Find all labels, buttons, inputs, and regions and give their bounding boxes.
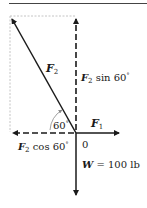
weight-label: W = 100 lb	[82, 160, 140, 170]
weight-symbol: W	[82, 159, 93, 170]
f2-cos-degree: °	[65, 140, 68, 147]
f1-label: F1	[91, 118, 103, 131]
f2-sin-degree: °	[126, 71, 129, 78]
f2-sin-subscript: 2	[88, 77, 92, 85]
f1-subscript: 1	[99, 123, 103, 131]
origin-label: 0	[82, 140, 88, 150]
force-diagram: F2 F2 sin 60° 60° F1 0 F2 cos 60° W = 10…	[0, 0, 147, 208]
f2-sin-text: sin 60	[96, 72, 127, 83]
angle-value: 60	[53, 120, 66, 131]
f1-symbol: F	[91, 117, 99, 130]
f2-arrow	[12, 19, 76, 133]
f2-label: F2	[46, 63, 58, 76]
weight-value: = 100 lb	[96, 159, 139, 170]
diagram-canvas	[0, 0, 147, 208]
f2-cos-label: F2 cos 60°	[18, 141, 68, 154]
f2-cos-text: cos 60	[33, 141, 66, 152]
f2-symbol: F	[46, 62, 54, 75]
angle-degree: °	[66, 119, 69, 126]
f2-cos-subscript: 2	[25, 146, 29, 154]
angle-label: 60°	[53, 120, 69, 131]
f2-subscript: 2	[54, 68, 58, 76]
f2-sin-label: F2 sin 60°	[81, 72, 129, 85]
